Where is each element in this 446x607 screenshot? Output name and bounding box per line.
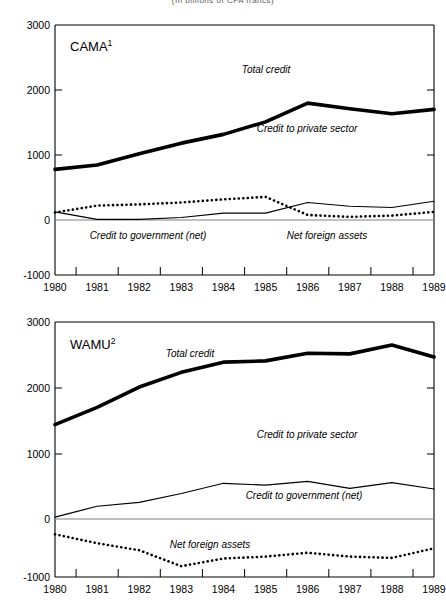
wamu-panel-label: WAMU2 [70, 336, 116, 352]
cama-annotations: Total credit Credit to private sector Cr… [90, 64, 368, 241]
y-tick-2000: 2000 [27, 84, 51, 96]
wamu-x-ticks [76, 569, 413, 577]
x-tick-1983: 1983 [170, 281, 194, 293]
x-tick-1985: 1985 [254, 281, 278, 293]
x-tick-1981: 1981 [85, 281, 109, 293]
x-tick-1982: 1982 [128, 583, 152, 595]
figure-container: (In billions of CFA francs) [0, 0, 446, 607]
y-tick-neg1000: -1000 [23, 571, 50, 583]
chart-panel-cama: 3000 2000 1000 0 -1000 1980 1981 1982 19… [0, 18, 446, 300]
cama-x-tick-labels: 1980 1981 1982 1983 1984 1985 1986 1987 … [43, 281, 446, 293]
y-tick-3000: 3000 [27, 19, 51, 31]
y-tick-2000: 2000 [27, 382, 51, 394]
cama-y-ticks [55, 90, 434, 155]
x-tick-1988: 1988 [380, 281, 404, 293]
label-net-foreign-assets: Net foreign assets [287, 230, 368, 241]
y-tick-1000: 1000 [27, 149, 51, 161]
x-tick-1984: 1984 [212, 281, 236, 293]
cama-x-ticks [76, 267, 413, 275]
x-tick-1980: 1980 [43, 583, 67, 595]
wamu-y-ticks [55, 388, 434, 454]
y-tick-0: 0 [44, 214, 50, 226]
y-tick-1000: 1000 [27, 448, 51, 460]
label-credit-private: Credit to private sector [257, 123, 358, 134]
x-tick-1981: 1981 [85, 583, 109, 595]
wamu-svg: 3000 2000 1000 0 -1000 1980 1981 1982 19… [0, 315, 446, 607]
figure-title: (In billions of CFA francs) [0, 0, 446, 5]
label-total-credit: Total credit [242, 64, 292, 75]
y-tick-neg1000: -1000 [23, 269, 50, 281]
x-tick-1989: 1989 [422, 281, 446, 293]
x-tick-1982: 1982 [128, 281, 152, 293]
x-tick-1986: 1986 [296, 583, 320, 595]
x-tick-1987: 1987 [338, 281, 362, 293]
cama-series-credit-government [55, 201, 434, 219]
label-total-credit: Total credit [166, 348, 216, 359]
label-credit-government: Credit to government (net) [246, 490, 363, 501]
wamu-series-credit-government [55, 481, 434, 517]
x-tick-1984: 1984 [212, 583, 236, 595]
wamu-x-tick-labels: 1980 1981 1982 1983 1984 1985 1986 1987 … [43, 583, 446, 595]
wamu-series-total-credit [55, 345, 434, 425]
label-net-foreign-assets: Net foreign assets [170, 539, 251, 550]
label-credit-private: Credit to private sector [257, 429, 358, 440]
label-credit-government: Credit to government (net) [90, 230, 207, 241]
x-tick-1986: 1986 [296, 281, 320, 293]
x-tick-1988: 1988 [380, 583, 404, 595]
chart-panel-wamu: 3000 2000 1000 0 -1000 1980 1981 1982 19… [0, 315, 446, 607]
x-tick-1987: 1987 [338, 583, 362, 595]
cama-panel-label: CAMA1 [70, 38, 113, 54]
wamu-y-tick-labels: 3000 2000 1000 0 -1000 [23, 316, 50, 583]
y-tick-0: 0 [44, 513, 50, 525]
x-tick-1989: 1989 [422, 583, 446, 595]
y-tick-3000: 3000 [27, 316, 51, 328]
x-tick-1983: 1983 [170, 583, 194, 595]
cama-series-total-credit [55, 103, 434, 169]
cama-svg: 3000 2000 1000 0 -1000 1980 1981 1982 19… [0, 18, 446, 300]
x-tick-1980: 1980 [43, 281, 67, 293]
cama-y-tick-labels: 3000 2000 1000 0 -1000 [23, 19, 50, 281]
x-tick-1985: 1985 [254, 583, 278, 595]
wamu-annotations: Total credit Credit to private sector Cr… [166, 348, 363, 550]
